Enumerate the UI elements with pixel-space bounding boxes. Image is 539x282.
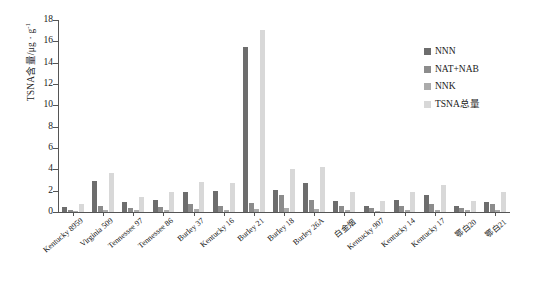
chart-legend: NNNNAT+NABNNKTSNA总量 bbox=[424, 43, 480, 113]
legend-item-nnk[interactable]: NNK bbox=[424, 78, 480, 96]
bar-nnk-12 bbox=[435, 210, 440, 212]
y-axis-line bbox=[58, 20, 59, 212]
y-tick-mark bbox=[53, 148, 58, 149]
bar-nat-nab-0 bbox=[68, 210, 73, 212]
bar-tsna--8 bbox=[320, 167, 325, 212]
bar-group bbox=[183, 20, 205, 212]
bar-nnn-9 bbox=[333, 201, 338, 212]
legend-item-nnn[interactable]: NNN bbox=[424, 43, 480, 61]
x-tick-mark bbox=[405, 212, 406, 216]
y-tick-label: 4 bbox=[31, 164, 53, 174]
bar-group bbox=[394, 20, 416, 212]
bar-nnk-1 bbox=[103, 210, 108, 212]
bar-nnn-6 bbox=[243, 47, 248, 212]
bar-nat-nab-6 bbox=[249, 203, 254, 212]
bar-nat-nab-2 bbox=[128, 208, 133, 212]
x-tick-mark bbox=[374, 212, 375, 216]
bar-nnn-0 bbox=[62, 207, 67, 212]
y-tick-mark bbox=[53, 20, 58, 21]
x-tick-mark bbox=[465, 212, 466, 216]
legend-label: NNN bbox=[435, 47, 456, 57]
y-tick-mark bbox=[53, 63, 58, 64]
bar-nnk-2 bbox=[134, 210, 139, 212]
bar-nnk-5 bbox=[224, 210, 229, 212]
bar-nat-nab-5 bbox=[218, 206, 223, 212]
bar-nnk-8 bbox=[314, 209, 319, 212]
bar-nnk-14 bbox=[495, 210, 500, 212]
bar-nnn-7 bbox=[273, 190, 278, 212]
bar-tsna--2 bbox=[139, 197, 144, 212]
x-tick-mark bbox=[133, 212, 134, 216]
bar-nnk-13 bbox=[465, 210, 470, 212]
y-tick-mark bbox=[53, 127, 58, 128]
bar-tsna--3 bbox=[169, 192, 174, 212]
bar-tsna--9 bbox=[350, 192, 355, 212]
y-tick-label: 16 bbox=[31, 36, 53, 46]
bar-nnn-5 bbox=[213, 191, 218, 212]
y-tick-label: 14 bbox=[31, 58, 53, 68]
bar-nat-nab-9 bbox=[339, 206, 344, 212]
bar-nat-nab-11 bbox=[399, 206, 404, 212]
bar-nnn-2 bbox=[122, 202, 127, 212]
bar-nat-nab-13 bbox=[459, 208, 464, 212]
bar-tsna--14 bbox=[501, 192, 506, 212]
x-tick-mark bbox=[495, 212, 496, 216]
y-tick-label: 0 bbox=[31, 207, 53, 217]
bar-group bbox=[153, 20, 175, 212]
y-tick-mark bbox=[53, 41, 58, 42]
legend-label: NNK bbox=[435, 82, 456, 92]
bar-nat-nab-4 bbox=[188, 204, 193, 212]
bar-nnk-9 bbox=[345, 210, 350, 212]
bar-nnn-8 bbox=[303, 183, 308, 212]
bar-nat-nab-1 bbox=[98, 206, 103, 212]
bar-nnk-11 bbox=[405, 210, 410, 212]
bar-nnn-12 bbox=[424, 195, 429, 212]
bar-nnk-0 bbox=[73, 211, 78, 212]
bar-group bbox=[303, 20, 325, 212]
x-axis-label-0: Kentucky 8959 bbox=[41, 216, 84, 254]
bar-nat-nab-7 bbox=[279, 195, 284, 212]
y-tick-mark bbox=[53, 212, 58, 213]
y-axis-title-exponent: -1 bbox=[24, 23, 31, 29]
bar-tsna--7 bbox=[290, 169, 295, 212]
bar-tsna--4 bbox=[199, 182, 204, 212]
bar-group bbox=[122, 20, 144, 212]
y-tick-mark bbox=[53, 169, 58, 170]
legend-label: TSNA总量 bbox=[435, 100, 480, 110]
legend-swatch-icon bbox=[424, 101, 431, 108]
x-tick-mark bbox=[254, 212, 255, 216]
bar-nnk-10 bbox=[375, 211, 380, 212]
bar-tsna--5 bbox=[230, 183, 235, 212]
legend-swatch-icon bbox=[424, 83, 431, 90]
bar-nnk-6 bbox=[254, 209, 259, 212]
bar-group bbox=[273, 20, 295, 212]
bar-nnn-14 bbox=[484, 202, 489, 212]
y-tick-label: 12 bbox=[31, 79, 53, 89]
legend-item-nat-nab[interactable]: NAT+NAB bbox=[424, 61, 480, 79]
bar-nat-nab-12 bbox=[429, 204, 434, 212]
bar-nat-nab-14 bbox=[490, 204, 495, 212]
legend-label: NAT+NAB bbox=[435, 65, 479, 75]
legend-item-tsna总量[interactable]: TSNA总量 bbox=[424, 96, 480, 114]
x-tick-mark bbox=[435, 212, 436, 216]
bar-group bbox=[333, 20, 355, 212]
x-axis-label-6: Burley 21 bbox=[236, 216, 266, 243]
bar-tsna--10 bbox=[380, 201, 385, 212]
bar-group bbox=[243, 20, 265, 212]
bar-group bbox=[484, 20, 506, 212]
bar-nnn-10 bbox=[364, 206, 369, 212]
x-tick-mark bbox=[224, 212, 225, 216]
x-axis-label-14: 鄂白21 bbox=[483, 216, 508, 240]
x-tick-mark bbox=[314, 212, 315, 216]
bar-tsna--12 bbox=[441, 185, 446, 212]
y-tick-label: 2 bbox=[31, 186, 53, 196]
y-tick-mark bbox=[53, 105, 58, 106]
bar-nat-nab-8 bbox=[309, 200, 314, 212]
x-tick-mark bbox=[163, 212, 164, 216]
bar-nnk-4 bbox=[194, 209, 199, 212]
x-tick-mark bbox=[73, 212, 74, 216]
y-tick-label: 10 bbox=[31, 100, 53, 110]
bar-group bbox=[213, 20, 235, 212]
y-tick-label: 18 bbox=[31, 15, 53, 25]
y-tick-label: 8 bbox=[31, 122, 53, 132]
